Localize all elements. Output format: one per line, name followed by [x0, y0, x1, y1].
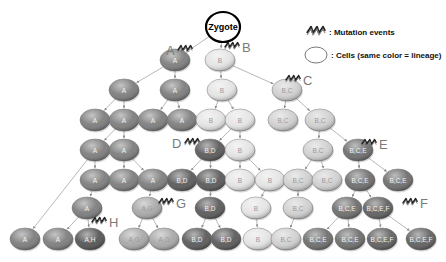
cell-node: A: [80, 169, 111, 193]
cell-label: A: [180, 117, 185, 124]
cell-label: B: [209, 117, 213, 124]
lineage-edge: [305, 160, 311, 169]
mutation-event-icon: [307, 27, 325, 35]
cell-node: B: [225, 169, 256, 193]
lineage-edge: [104, 99, 115, 110]
cell-node: B,C,E: [335, 228, 366, 252]
cell-node: A: [109, 109, 140, 133]
mutation-label: G: [176, 196, 186, 211]
lineage-edge: [133, 159, 144, 170]
cell-node: B,C: [272, 79, 303, 103]
cell-node: A,G: [149, 228, 180, 252]
zygote-label: Zygote: [208, 22, 238, 32]
mutation-label: E: [379, 137, 388, 152]
lineage-edge: [104, 129, 115, 140]
cell-label: A,H: [85, 236, 96, 243]
cell-label: A: [173, 57, 178, 64]
legend-cell-label: : Cells (same color = lineage): [331, 51, 442, 60]
lineage-tree-diagram: ABAABB,CAAAABBB,CB,CAAB,DBB,CB,C,EAAAB,D…: [0, 0, 446, 262]
lineage-edge: [249, 159, 261, 171]
cell-label: B: [254, 205, 258, 212]
lineage-edge: [202, 219, 206, 228]
cell-label: A: [122, 87, 127, 94]
cell-node: B,D: [182, 228, 213, 252]
cell-node: A: [109, 79, 140, 103]
cell-legend-icon: [305, 47, 327, 63]
cell-label: A: [93, 177, 98, 184]
cell-node: A,H: [75, 228, 106, 252]
cell-node: B,D: [167, 169, 198, 193]
cell-node: B: [196, 109, 227, 133]
cell-label: B,D: [192, 236, 203, 243]
cell-node: B,D: [211, 228, 242, 252]
cell-node: B,C,E,F: [367, 228, 398, 252]
mutation-event-f: F: [403, 196, 428, 211]
cell-node: B,C,E: [332, 197, 363, 221]
cell-label: A: [151, 117, 156, 124]
cell-node: B,C,E: [383, 169, 414, 193]
cell-label: B,C,E: [390, 177, 408, 184]
cell-label: B,C,E: [339, 205, 357, 212]
cell-node: B,C: [268, 109, 299, 133]
cell-node: A: [109, 169, 140, 193]
cell-label: B,C: [322, 177, 333, 184]
cell-node: B,C,E: [345, 169, 376, 193]
cell-node: B,C: [283, 197, 314, 221]
cell-node: A,G: [119, 228, 150, 252]
cell-node: B: [255, 169, 286, 193]
cell-node: B,C,E,F: [363, 197, 394, 221]
lineage-edge: [330, 128, 347, 141]
cell-label: B,C,E: [350, 147, 368, 154]
cell-node: B,C: [312, 169, 343, 193]
mutation-label: A: [166, 43, 175, 58]
lineage-edge: [296, 99, 309, 111]
lineage-edge: [139, 219, 143, 228]
cell-node: B,C,E,F: [406, 228, 437, 252]
cell-node: A,G: [132, 197, 163, 221]
lineage-edge: [220, 129, 232, 141]
cell-label: A: [93, 147, 98, 154]
cell-label: B,C: [278, 117, 289, 124]
cell-node: A: [167, 109, 198, 133]
cell-node: A: [72, 197, 103, 221]
zygote-node: Zygote: [206, 12, 240, 42]
cell-label: B,C: [281, 236, 292, 243]
cell-label: B,D: [205, 147, 216, 154]
cell-node: B,D: [195, 197, 226, 221]
mutation-label: H: [109, 215, 118, 230]
legend: : Mutation events : Cells (same color = …: [305, 27, 442, 63]
cell-label: B: [220, 87, 224, 94]
cell-node: A: [80, 139, 111, 163]
cell-label: B,C,E,F: [410, 236, 433, 243]
cell-label: B: [238, 147, 242, 154]
cell-node: B: [241, 197, 272, 221]
cell-label: B,C: [293, 205, 304, 212]
cell-label: B,C,E: [352, 177, 370, 184]
mutation-bolt-icon: [225, 43, 239, 49]
lineage-edge: [233, 66, 273, 84]
cell-node: B,C,E: [303, 228, 334, 252]
lineage-edge: [290, 219, 293, 228]
cell-label: B,C,E,F: [371, 236, 394, 243]
cell-label: A,G: [128, 236, 139, 243]
cell-label: B,D: [205, 205, 216, 212]
cell-label: B,C: [313, 147, 324, 154]
cell-label: A: [93, 117, 98, 124]
cell-node: A: [160, 49, 191, 73]
cell-label: A,G: [158, 236, 169, 243]
lineage-edge: [191, 159, 201, 170]
cell-label: B: [238, 177, 242, 184]
cell-label: B,D: [221, 236, 232, 243]
mutation-label: C: [303, 73, 312, 88]
mutation-label: D: [172, 136, 181, 151]
lineage-edge: [137, 67, 164, 83]
mutation-event-g: G: [159, 196, 186, 211]
cell-node: B,C: [283, 169, 314, 193]
cell-label: A: [122, 117, 127, 124]
cell-node: A: [160, 79, 191, 103]
lineage-edge: [327, 217, 338, 229]
cell-node: B: [205, 49, 236, 73]
cell-label: B,C: [293, 177, 304, 184]
cell-label: B,C: [282, 87, 293, 94]
cell-node: A: [10, 228, 41, 252]
